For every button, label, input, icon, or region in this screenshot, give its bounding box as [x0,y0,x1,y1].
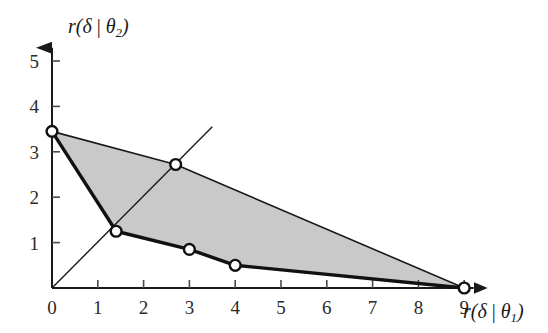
risk-set-figure: 012345678912345 r(δ | θ1) r(δ | θ2) [0,0,548,333]
x-tick-label-8: 8 [414,297,424,318]
x-tick-label-2: 2 [139,297,149,318]
y-tick-label-4: 4 [30,96,40,117]
x-tick-label-4: 4 [230,297,240,318]
marker-point-x3 [184,244,195,255]
x-tick-label-7: 7 [368,297,378,318]
marker-vertex-x-intercept [459,283,470,294]
x-tick-label-0: 0 [47,297,57,318]
y-tick-label-1: 1 [30,233,40,254]
marker-vertex-y-intercept [47,126,58,137]
x-tick-label-5: 5 [276,297,286,318]
y-tick-label-5: 5 [30,51,40,72]
marker-vertex-kink [111,226,122,237]
y-tick-label-2: 2 [30,187,40,208]
y-tick-label-3: 3 [30,142,40,163]
risk-set-plot: 012345678912345 r(δ | θ1) r(δ | θ2) [0,0,548,333]
marker-point-x4 [230,260,241,271]
x-tick-label-3: 3 [185,297,195,318]
x-tick-label-1: 1 [93,297,103,318]
x-tick-label-6: 6 [322,297,332,318]
marker-diagonal-intersection [170,159,181,170]
